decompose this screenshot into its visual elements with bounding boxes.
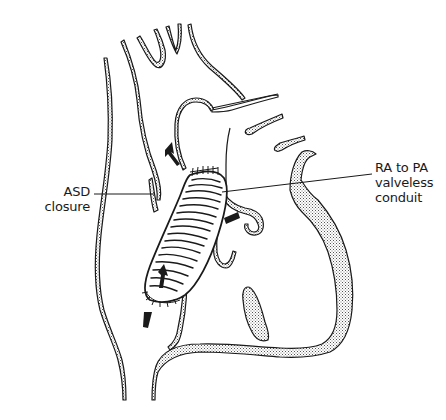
conduit-label-line2: valveless: [375, 175, 433, 190]
flow-arrow-right: [224, 212, 240, 224]
aortic-arch: [188, 24, 245, 100]
tricuspid-leaflet: [222, 194, 263, 235]
conduit-label: RA to PA valveless conduit: [375, 160, 433, 205]
asd-closure-label-line1: ASD: [40, 184, 90, 199]
asd-closure-label: ASD closure: [40, 184, 90, 214]
innominate-vessel: [137, 29, 165, 68]
flow-arrow-bottom: [143, 312, 152, 328]
asd-closure-label-line2: closure: [40, 199, 90, 214]
left-outer-wall: [95, 58, 126, 400]
pa-loop: [175, 98, 214, 170]
valveless-conduit: [142, 166, 227, 307]
septum-finger: [243, 287, 269, 341]
conduit-label-line3: conduit: [375, 190, 433, 205]
rpa-tube-2: [274, 136, 305, 151]
rpa-tube-1: [245, 114, 283, 135]
carotid-vessel: [166, 24, 181, 54]
conduit-label-line1: RA to PA: [375, 160, 433, 175]
